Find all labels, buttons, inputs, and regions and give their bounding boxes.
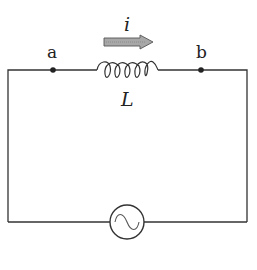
node-b-label: b <box>196 42 207 62</box>
node-b-dot <box>198 67 204 73</box>
inductor-label: L <box>120 88 134 110</box>
node-a-label: a <box>47 42 57 62</box>
node-a-dot <box>50 67 56 73</box>
wire-top-right <box>158 70 247 222</box>
wire-top-left <box>8 70 97 222</box>
ac-source-icon <box>110 205 144 239</box>
current-arrow-icon <box>104 35 153 49</box>
inductor-coil-icon <box>97 61 158 77</box>
current-label: i <box>124 13 130 35</box>
circuit-diagram: i a b L <box>0 0 257 270</box>
